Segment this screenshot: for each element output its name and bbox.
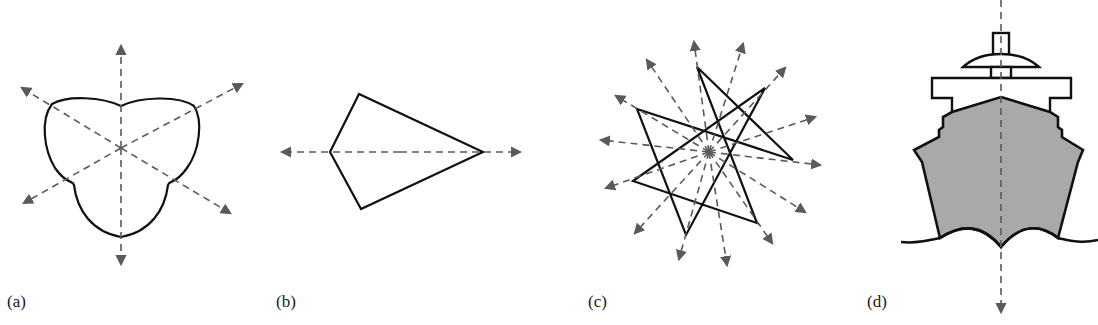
panel-d-ship <box>901 0 1098 312</box>
axis-a-lower-right <box>121 148 230 213</box>
panel-c-star <box>601 42 820 265</box>
panel-a-label: (a) <box>7 292 26 312</box>
panel-a-trefoil <box>22 46 242 264</box>
panel-c-label: (c) <box>588 292 607 312</box>
axis-a-upper-right <box>121 84 242 148</box>
axis-a-lower-left <box>24 148 121 203</box>
panel-b-kite <box>282 94 520 209</box>
panel-d-label: (d) <box>867 292 887 312</box>
axis-a-upper-left <box>22 88 121 148</box>
symmetry-figure <box>0 0 1098 325</box>
panel-b-label: (b) <box>276 292 296 312</box>
ship-hull <box>914 97 1083 247</box>
